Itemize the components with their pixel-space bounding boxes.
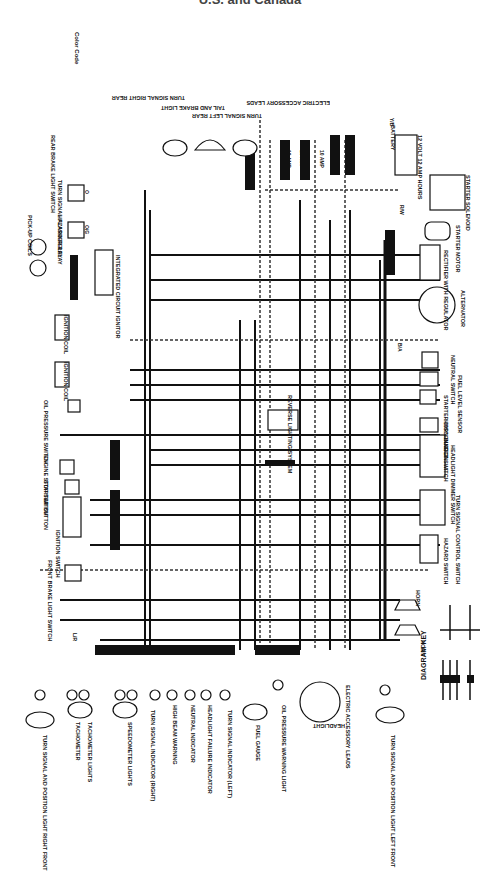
label-oil-pressure-warning-light: OIL PRESSURE WARNING LIGHT [281, 705, 287, 792]
label-turn-signal-left-front: TURN SIGNAL AND POSITION LIGHT LEFT FRON… [390, 735, 396, 867]
label-fuel-level-sensor: FUEL LEVEL SENSOR [457, 375, 463, 433]
label-headlight-failure-indicator: HEADLIGHT FAILURE INDICATOR [207, 705, 213, 794]
label-hazard-switch: HAZARD SWITCH [443, 538, 449, 584]
color-code-heading: Color Code [74, 32, 80, 64]
fuse-label: 10 AMP [319, 150, 325, 168]
label-pickup-coils: PICK-UP COILS [27, 215, 33, 256]
label-front-brake-light-switch: FRONT BRAKE LIGHT SWITCH [47, 560, 53, 641]
label-reverse-lighting-system: REVERSE LIGHTING SYSTEM [287, 395, 293, 473]
label-tachometer: TACHOMETER [75, 722, 81, 760]
label-alternator: ALTERNATOR [460, 290, 466, 327]
wire-label: B/A [397, 343, 403, 352]
label-turn-signal-control-switch: TURN SIGNAL CONTROL SWITCH [455, 495, 461, 584]
label-speedometer-lights: SPEEDOMETER LIGHTS [127, 722, 133, 786]
label-electric-accessory-leads-rear: ELECTRIC ACCESSORY LEADS [246, 100, 330, 106]
wire-label: R/W [399, 205, 405, 215]
label-tail-brake-light: TAIL AND BRAKE LIGHT [161, 105, 225, 111]
label-battery-spec: 12 VOLT 12 AMP HOURS [417, 135, 423, 199]
label-high-beam-warning: HIGH BEAM WARNING [172, 705, 178, 765]
label-fuel-gauge: FUEL GAUGE [255, 725, 261, 761]
label-starter-motor: STARTER MOTOR [455, 225, 461, 272]
label-rear-brake-light-switch: REAR BRAKE LIGHT SWITCH [50, 135, 56, 213]
wire-label: O [84, 190, 90, 194]
label-turn-signal-indicator-right: TURN SIGNAL INDICATOR (RIGHT) [150, 710, 156, 801]
label-turn-signal-indicator-left: TURN SIGNAL INDICATOR (LEFT) [227, 710, 233, 798]
label-neutral-switch: NEUTRAL SWITCH [450, 355, 456, 404]
fuse-label: 10 AMP [334, 150, 340, 168]
label-electric-accessory-leads-front: ELECTRIC ACCESSORY LEADS [345, 685, 351, 769]
fuse-label: 10 AMP [349, 150, 355, 168]
label-rectifier: RECTIFIER WITH REGULATOR [443, 250, 449, 330]
turn-signal-right-rear-lens [163, 140, 187, 156]
fuse-label: 10 AMP [286, 150, 292, 168]
label-turn-signal-right-rear: TURN SIGNAL RIGHT REAR [112, 95, 185, 101]
label-horn-button: HORN BUTTON [443, 420, 449, 461]
label-ignition-coil-1: IGNITION COIL [63, 315, 69, 354]
wire-label: Y/B [389, 118, 395, 126]
label-headlight: HEADLIGHT [313, 723, 345, 729]
label-horn-2: HORN [420, 640, 426, 656]
label-tachometer-lights: TACHOMETER LIGHTS [87, 722, 93, 782]
label-neutral-indicator: NEUTRAL INDICATOR [190, 705, 196, 763]
label-turn-signal-right-front: TURN SIGNAL AND POSITION LIGHT RIGHT FRO… [42, 735, 48, 871]
wire-label: O/G [84, 225, 90, 234]
label-starter-solenoid: STARTER SOLENOID [465, 175, 471, 231]
label-horn-1: HORN [415, 590, 421, 606]
label-integrated-circuit-ignitor: INTEGRATED CIRCUIT IGNITOR [115, 255, 121, 339]
label-hazard-relay: HAZARD RELAY [57, 215, 63, 258]
label-turn-signal-left-rear: TURN SIGNAL LEFT REAR [192, 113, 262, 119]
wire-label: L/R [72, 633, 78, 641]
label-ignition-coil-2: IGNITION COIL [63, 362, 69, 401]
label-battery: BATTERY [390, 125, 396, 150]
label-starter-button: STARTER BUTTON [43, 480, 49, 530]
fuse-label: 10 AMP [299, 150, 305, 168]
label-ignition-switch: IGNITION SWITCH [55, 530, 61, 578]
